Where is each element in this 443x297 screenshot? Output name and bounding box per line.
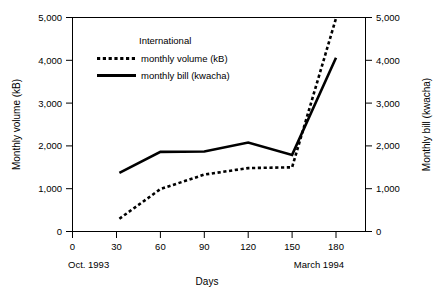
left-tick-label-2000: 2,000 — [38, 140, 62, 151]
x-tick-label-120: 120 — [240, 241, 256, 252]
left-tick-label-0: 0 — [57, 226, 62, 237]
annotation-end-date: March 1994 — [294, 259, 344, 270]
legend-label-monthly-bill: monthly bill (kwacha) — [141, 70, 230, 81]
right-axis-title: Monthly bill (kwacha) — [421, 78, 432, 171]
x-tick-label-90: 90 — [199, 241, 210, 252]
x-tick-label-0: 0 — [70, 241, 75, 252]
x-tick-label-60: 60 — [155, 241, 166, 252]
right-tick-label-0: 0 — [376, 226, 381, 237]
chart-figure: 5,000 4,000 3,000 2,000 1,000 0 Monthly … — [0, 0, 443, 297]
x-tick-label-30: 30 — [111, 241, 122, 252]
right-tick-label-3000: 3,000 — [376, 98, 400, 109]
right-tick-label-5000: 5,000 — [376, 12, 400, 23]
x-tick-label-180: 180 — [328, 241, 344, 252]
left-tick-label-4000: 4,000 — [38, 55, 62, 66]
legend-title: International — [139, 35, 191, 46]
left-tick-label-5000: 5,000 — [38, 12, 62, 23]
x-tick-label-150: 150 — [284, 241, 300, 252]
left-axis-title: Monthly volume (kB) — [11, 79, 22, 170]
legend-label-monthly-volume: monthly volume (kB) — [141, 53, 228, 64]
x-axis-title: Days — [196, 276, 219, 287]
right-tick-label-2000: 2,000 — [376, 140, 400, 151]
left-tick-label-3000: 3,000 — [38, 98, 62, 109]
right-tick-label-4000: 4,000 — [376, 55, 400, 66]
left-tick-label-1000: 1,000 — [38, 183, 62, 194]
annotation-start-date: Oct. 1993 — [68, 259, 109, 270]
line-chart-svg: 5,000 4,000 3,000 2,000 1,000 0 Monthly … — [0, 0, 443, 297]
right-tick-label-1000: 1,000 — [376, 183, 400, 194]
